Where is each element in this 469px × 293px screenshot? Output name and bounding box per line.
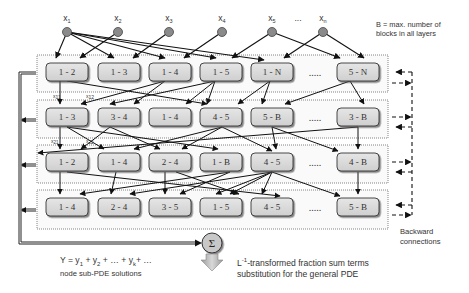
svg-text:2 - 4: 2 - 4 bbox=[111, 202, 128, 212]
svg-text:1 - N: 1 - N bbox=[263, 67, 282, 77]
node-l3-5: 4 - 5 bbox=[251, 153, 293, 171]
formula-caption: node sub-PDE solutions bbox=[60, 269, 152, 279]
backward-connections bbox=[392, 72, 412, 215]
layer-4-ellipsis: ..... bbox=[309, 202, 322, 213]
input-xn: xn bbox=[319, 13, 328, 37]
sum-node: Σ bbox=[202, 233, 222, 253]
input-xn-label: xn bbox=[319, 13, 326, 24]
svg-text:5 - B: 5 - B bbox=[349, 202, 367, 212]
node-l1-5: 1 - N bbox=[251, 63, 293, 81]
input-x4-label: x4 bbox=[218, 13, 225, 24]
backward-note-line2: connections bbox=[400, 237, 441, 247]
sigma-icon: Σ bbox=[209, 237, 215, 249]
node-l1-4: 1 - 5 bbox=[200, 63, 242, 81]
node-l3-4: 1 - B bbox=[200, 153, 242, 171]
legend-note-line1: B = max. number of bbox=[376, 20, 441, 29]
node-l2-3: 1 - 4 bbox=[149, 108, 191, 126]
node-l4-1: 1 - 4 bbox=[46, 198, 88, 216]
node-l1-3: 1 - 4 bbox=[149, 63, 191, 81]
svg-text:5 - N: 5 - N bbox=[349, 67, 368, 77]
gmdh-polynomial-network-diagram: x1 x2 x3 x4 x5 ... xn x11 x12 x21 x22 bbox=[0, 0, 469, 293]
node-l2-2: 3 - 4 bbox=[98, 108, 140, 126]
input-x2-label: x2 bbox=[114, 13, 121, 24]
node-l4-5: 4 - 5 bbox=[251, 198, 293, 216]
svg-text:4 - 5: 4 - 5 bbox=[264, 202, 281, 212]
node-l1-1: 1 - 2 bbox=[46, 63, 88, 81]
backward-connections-note: Backward connections bbox=[400, 227, 441, 247]
node-l4-4: 1 - 5 bbox=[200, 198, 242, 216]
transform-line1: L-1-transformed fraction sum terms bbox=[237, 255, 369, 269]
svg-text:1 - 5: 1 - 5 bbox=[213, 67, 230, 77]
svg-text:4 - B: 4 - B bbox=[349, 157, 367, 167]
layer-1-ellipsis: ..... bbox=[309, 67, 322, 78]
svg-text:1 - 3: 1 - 3 bbox=[59, 112, 76, 122]
input-x3: x3 bbox=[165, 13, 174, 37]
svg-text:1 - 4: 1 - 4 bbox=[162, 67, 179, 77]
input-x1: x1 bbox=[63, 13, 72, 37]
layer-2-ellipsis: ..... bbox=[309, 112, 322, 123]
formula-line: Y = y1 + y2 + … + yk+ … bbox=[60, 255, 152, 269]
node-l2-1: 1 - 3 bbox=[46, 108, 88, 126]
transform-note: L-1-transformed fraction sum terms subst… bbox=[237, 255, 369, 280]
svg-text:1 - 2: 1 - 2 bbox=[59, 67, 76, 77]
input-x3-label: x3 bbox=[165, 13, 172, 24]
input-ellipsis: ... bbox=[294, 13, 301, 23]
input-x1-label: x1 bbox=[63, 13, 70, 24]
node-l3-3: 2 - 4 bbox=[149, 153, 191, 171]
legend-note-max-blocks: B = max. number of blocks in all layers bbox=[376, 20, 441, 38]
svg-text:1 - 5: 1 - 5 bbox=[213, 202, 230, 212]
svg-text:1 - 4: 1 - 4 bbox=[162, 112, 179, 122]
input-x2: x2 bbox=[114, 13, 123, 37]
node-l3-1: 1 - 2 bbox=[46, 153, 88, 171]
svg-text:3 - 4: 3 - 4 bbox=[111, 112, 128, 122]
svg-text:3 - 5: 3 - 5 bbox=[162, 202, 179, 212]
input-x5-label: x5 bbox=[268, 13, 275, 24]
node-l4-2: 2 - 4 bbox=[98, 198, 140, 216]
legend-note-line2: blocks in all layers bbox=[376, 29, 441, 38]
transform-line2: substitution for the general PDE bbox=[237, 269, 369, 280]
svg-text:1 - 3: 1 - 3 bbox=[111, 67, 128, 77]
input-x5: x5 bbox=[268, 13, 277, 37]
node-l3-2: 1 - 4 bbox=[98, 153, 140, 171]
label-x21: x21 bbox=[51, 138, 59, 145]
svg-text:3 - B: 3 - B bbox=[349, 112, 367, 122]
output-down-arrow-icon bbox=[201, 254, 223, 271]
label-x11: x11 bbox=[53, 93, 61, 100]
label-x12: x12 bbox=[86, 93, 94, 100]
node-l2-6: 3 - B bbox=[337, 108, 379, 126]
node-l1-6: 5 - N bbox=[337, 63, 379, 81]
svg-text:4 - 5: 4 - 5 bbox=[264, 157, 281, 167]
svg-text:1 - 4: 1 - 4 bbox=[111, 157, 128, 167]
svg-text:1 - 2: 1 - 2 bbox=[59, 157, 76, 167]
label-x22: x22 bbox=[86, 138, 94, 145]
svg-text:4 - 5: 4 - 5 bbox=[213, 112, 230, 122]
input-x4: x4 bbox=[218, 13, 227, 37]
node-l2-4: 4 - 5 bbox=[200, 108, 242, 126]
input-variables: x1 x2 x3 x4 x5 ... xn bbox=[63, 13, 328, 37]
svg-text:5 - B: 5 - B bbox=[263, 112, 281, 122]
node-l4-3: 3 - 5 bbox=[149, 198, 191, 216]
svg-text:1 - 4: 1 - 4 bbox=[59, 202, 76, 212]
node-l3-6: 4 - B bbox=[337, 153, 379, 171]
output-formula: Y = y1 + y2 + … + yk+ … node sub-PDE sol… bbox=[60, 255, 152, 279]
node-l4-6: 5 - B bbox=[337, 198, 379, 216]
svg-text:2 - 4: 2 - 4 bbox=[162, 157, 179, 167]
layer-3-ellipsis: ..... bbox=[309, 157, 322, 168]
node-l1-2: 1 - 3 bbox=[98, 63, 140, 81]
node-l2-5: 5 - B bbox=[251, 108, 293, 126]
backward-note-line1: Backward bbox=[400, 227, 441, 237]
svg-text:1 - B: 1 - B bbox=[212, 157, 230, 167]
